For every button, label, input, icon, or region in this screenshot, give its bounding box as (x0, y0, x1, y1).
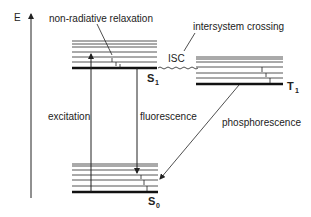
isc-label: ISC (168, 53, 185, 64)
phosphorescence-arrow (160, 85, 239, 179)
svg-text:S: S (148, 195, 155, 207)
jablonski-diagram: E S 1 T 1 S 0 (0, 0, 311, 217)
svg-text:T: T (287, 80, 294, 92)
intersystem-label: intersystem crossing (193, 21, 284, 32)
non-radiative-relaxation-t1 (262, 67, 270, 83)
fluorescence-label: fluorescence (140, 111, 197, 122)
energy-axis: E (14, 12, 31, 198)
non-radiative-relaxation-s0 (141, 175, 147, 191)
non-radiative-pointer (97, 24, 112, 55)
energy-axis-label: E (14, 12, 21, 23)
s1-state-label: S 1 (147, 72, 159, 86)
svg-text:0: 0 (156, 202, 160, 209)
t1-state-label: T 1 (287, 80, 299, 94)
excitation-label: excitation (48, 111, 90, 122)
svg-text:S: S (147, 72, 154, 84)
non-radiative-label: non-radiative relaxation (49, 13, 153, 24)
non-radiative-relaxation-s1 (112, 58, 120, 68)
svg-text:1: 1 (155, 79, 159, 86)
s1-levels (72, 41, 157, 68)
isc-wavy-line (158, 67, 198, 69)
phosphorescence-label: phosphorescence (222, 117, 301, 128)
svg-text:1: 1 (295, 87, 299, 94)
s0-state-label: S 0 (148, 195, 160, 209)
s0-levels (72, 164, 158, 192)
intersystem-pointer (184, 33, 195, 51)
